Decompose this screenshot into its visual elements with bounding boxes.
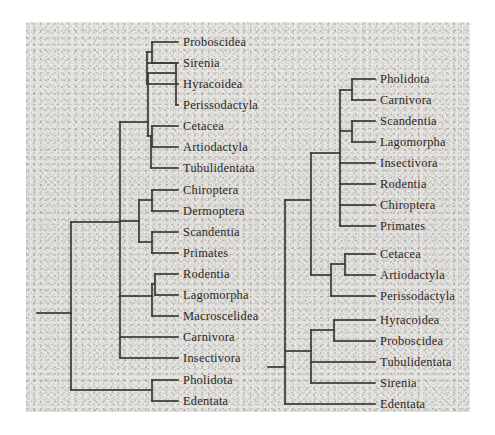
left-tip-label-artiodactyla: Artiodactyla	[183, 141, 248, 153]
left-tip-label-rodentia: Rodentia	[183, 268, 230, 280]
left-tip-label-tubulidentata: Tubulidentata	[183, 162, 255, 174]
left-tip-label-sirenia: Sirenia	[183, 57, 220, 69]
right-tip-label-pholidota: Pholidota	[380, 73, 430, 85]
right-tip-label-carnivora: Carnivora	[380, 94, 432, 106]
right-tip-label-hyracoidea: Hyracoidea	[380, 314, 440, 326]
left-tip-label-carnivora: Carnivora	[183, 331, 235, 343]
left-tip-label-proboscidea: Proboscidea	[183, 36, 246, 48]
right-tip-label-primates: Primates	[380, 220, 425, 232]
left-tip-label-dermoptera: Dermoptera	[183, 205, 245, 217]
left-tip-label-chiroptera: Chiroptera	[183, 184, 239, 196]
left-tip-label-primates: Primates	[183, 247, 228, 259]
right-tip-label-cetacea: Cetacea	[380, 248, 421, 260]
right-tree-branches	[268, 79, 375, 404]
cladogram-branches	[0, 0, 495, 435]
left-tip-label-perissodactyla: Perissodactyla	[183, 99, 258, 111]
right-tip-label-rodentia: Rodentia	[380, 178, 427, 190]
left-tip-label-lagomorpha: Lagomorpha	[183, 289, 249, 301]
left-tip-label-scandentia: Scandentia	[183, 226, 240, 238]
left-tip-label-pholidota: Pholidota	[183, 374, 233, 386]
left-tip-label-insectivora: Insectivora	[183, 352, 241, 364]
right-tip-label-artiodactyla: Artiodactyla	[380, 269, 445, 281]
right-tip-label-insectivora: Insectivora	[380, 157, 438, 169]
left-tip-label-hyracoidea: Hyracoidea	[183, 78, 243, 90]
right-tip-label-lagomorpha: Lagomorpha	[380, 136, 446, 148]
right-tip-label-tubulidentata: Tubulidentata	[380, 356, 452, 368]
right-tip-label-sirenia: Sirenia	[380, 377, 417, 389]
right-tip-label-scandentia: Scandentia	[380, 115, 437, 127]
right-tip-label-chiroptera: Chiroptera	[380, 199, 436, 211]
right-tip-label-edentata: Edentata	[380, 398, 425, 410]
left-tip-label-macroscelidea: Macroscelidea	[183, 310, 259, 322]
right-tip-label-proboscidea: Proboscidea	[380, 335, 443, 347]
left-tip-label-cetacea: Cetacea	[183, 120, 224, 132]
left-tree-branches	[37, 42, 178, 401]
right-tip-label-perissodactyla: Perissodactyla	[380, 290, 455, 302]
cladogram-figure: Proboscidea Sirenia Hyracoidea Perissoda…	[0, 0, 495, 435]
left-tip-label-edentata: Edentata	[183, 395, 228, 407]
